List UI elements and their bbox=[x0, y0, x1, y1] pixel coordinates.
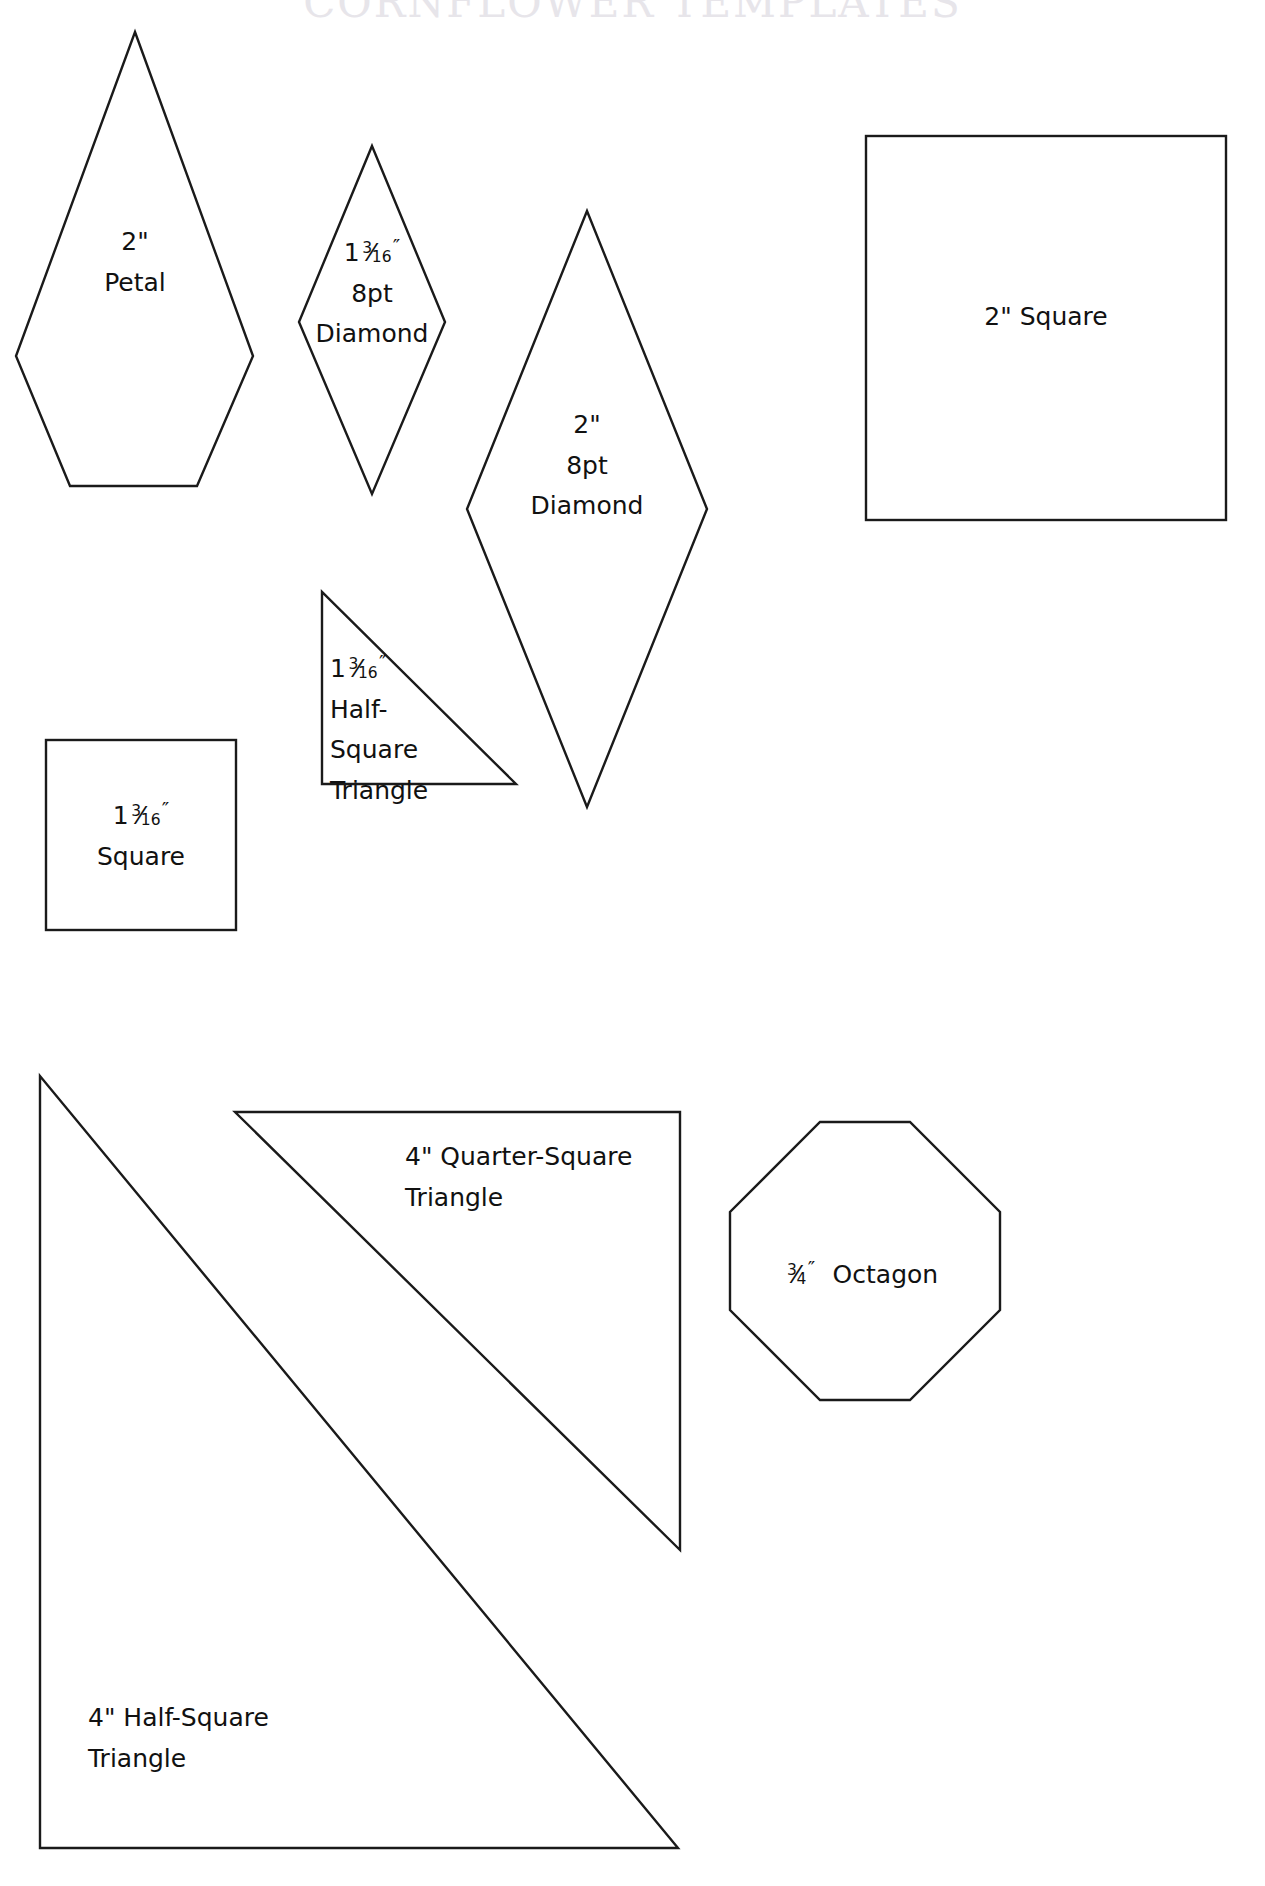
hst-4in-line1-text: 4" Half-Square bbox=[88, 1698, 428, 1739]
fraction-whole: 1 bbox=[330, 654, 346, 683]
large-diamond-name-text: Diamond bbox=[512, 486, 662, 527]
label-square-1-3-16in: 13⁄16″ Square bbox=[46, 793, 236, 877]
page-title: CORNFLOWER TEMPLATES bbox=[0, 0, 1265, 27]
label-diamond-8pt-large: 2" 8pt Diamond bbox=[512, 405, 662, 527]
large-diamond-points-text: 8pt bbox=[512, 446, 662, 487]
fraction-1-3-16: 13⁄16 bbox=[113, 795, 161, 837]
fraction-denominator: 16 bbox=[358, 664, 378, 682]
fraction-denominator: 16 bbox=[141, 811, 161, 829]
hst-small-size-text: 13⁄16″ bbox=[330, 646, 530, 690]
fraction-whole: 1 bbox=[113, 801, 129, 830]
square-2in-text: 2" Square bbox=[866, 297, 1226, 338]
inch-mark: ″ bbox=[162, 797, 169, 821]
hst-small-line1-text: Half- bbox=[330, 690, 530, 731]
fraction-1-3-16: 13⁄16 bbox=[344, 232, 392, 274]
petal-size-text: 2" bbox=[60, 222, 210, 263]
label-petal-2in: 2" Petal bbox=[60, 222, 210, 303]
hst-4in-line2-text: Triangle bbox=[88, 1739, 428, 1780]
inch-mark: ″ bbox=[808, 1256, 815, 1280]
small-diamond-points-text: 8pt bbox=[302, 274, 442, 315]
label-hst-4in: 4" Half-Square Triangle bbox=[88, 1698, 428, 1779]
fraction-denominator: 4 bbox=[797, 1270, 807, 1288]
square-small-size-text: 13⁄16″ bbox=[46, 793, 236, 837]
hst-small-line2-text: Square bbox=[330, 730, 530, 771]
label-square-2in: 2" Square bbox=[866, 297, 1226, 338]
large-diamond-size-text: 2" bbox=[512, 405, 662, 446]
fraction-denominator: 16 bbox=[372, 248, 392, 266]
square-small-name-text: Square bbox=[46, 837, 236, 878]
small-diamond-size-text: 13⁄16″ bbox=[302, 230, 442, 274]
hst-small-line3-text: Triangle bbox=[330, 771, 530, 812]
fraction-whole: 1 bbox=[344, 238, 360, 267]
fraction-1-3-16: 13⁄16 bbox=[330, 648, 378, 690]
inch-mark: ″ bbox=[393, 234, 400, 258]
octagon-name-text: Octagon bbox=[833, 1260, 939, 1289]
octagon-size-and-name-text: 3⁄4″Octagon bbox=[787, 1252, 1017, 1296]
small-diamond-name-text: Diamond bbox=[302, 314, 442, 355]
inch-mark: ″ bbox=[379, 650, 386, 674]
label-diamond-8pt-small: 13⁄16″ 8pt Diamond bbox=[302, 230, 442, 355]
label-hst-1-3-16in: 13⁄16″ Half- Square Triangle bbox=[330, 646, 530, 811]
template-sheet: CORNFLOWER TEMPLATES 2" Petal 13⁄16″ 8pt… bbox=[0, 0, 1265, 1886]
label-octagon-3-4in: 3⁄4″Octagon bbox=[787, 1252, 1017, 1296]
petal-name-text: Petal bbox=[60, 263, 210, 304]
fraction-3-4: 3⁄4 bbox=[787, 1254, 806, 1296]
